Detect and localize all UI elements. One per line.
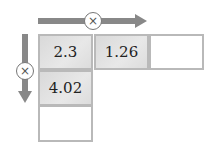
multiply-icon: × [84, 12, 102, 30]
cell-r1c2: 1.26 [94, 34, 149, 70]
multiply-icon: × [16, 62, 34, 80]
cell-r1c3-blank[interactable] [149, 34, 204, 70]
cell-r1c1: 2.3 [38, 34, 93, 70]
cell-r3c1-blank[interactable] [38, 105, 93, 142]
arrow-down-icon [18, 91, 32, 103]
cell-r2c1: 4.02 [38, 70, 93, 106]
arrow-right-icon [135, 14, 147, 28]
